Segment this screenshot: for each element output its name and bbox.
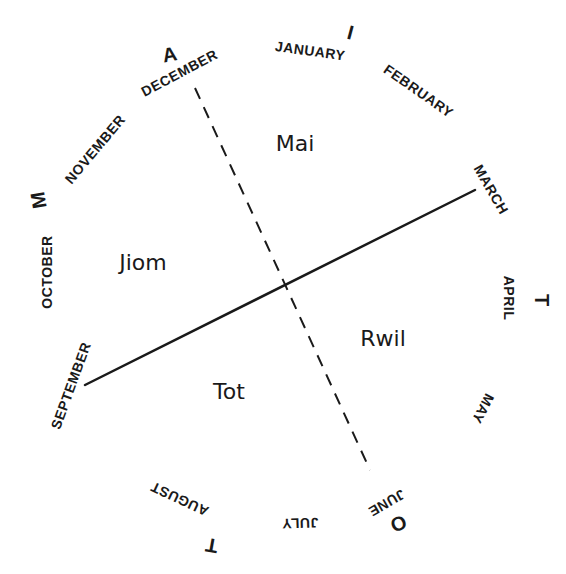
month-label-february: FEBRUARY (381, 61, 457, 121)
season-label-rwil: Rwil (360, 326, 406, 351)
marker-letter-m-2: M (26, 190, 51, 210)
month-label-september: SEPTEMBER (48, 340, 94, 432)
season-labels: MaiJiomRwilTot (117, 131, 406, 404)
marker-letter-t-5: T (204, 534, 220, 558)
month-label-october: OCTOBER (39, 235, 55, 308)
marker-letter-a-0: A (161, 42, 179, 66)
month-label-may: MAY (469, 391, 498, 426)
season-label-jiom: Jiom (117, 250, 167, 275)
month-label-march: MARCH (471, 162, 512, 217)
marker-letter-o-4: O (388, 511, 410, 537)
marker-letter-t-3: T (531, 294, 553, 306)
solid-divider-line (85, 190, 475, 385)
month-label-april: APRIL (501, 276, 517, 321)
month-label-august: AUGUST (148, 479, 211, 520)
month-label-january: JANUARY (274, 38, 346, 64)
month-label-july: JULY (281, 515, 318, 532)
season-label-mai: Mai (276, 131, 315, 156)
month-label-november: NOVEMBER (62, 112, 129, 187)
month-labels: JANUARYFEBRUARYMARCHAPRILMAYJUNEJULYAUGU… (39, 38, 518, 532)
marker-letter-i-1: I (345, 21, 356, 44)
season-label-tot: Tot (212, 379, 245, 404)
month-label-december: DECEMBER (138, 46, 220, 100)
season-wheel-diagram: JANUARYFEBRUARYMARCHAPRILMAYJUNEJULYAUGU… (0, 0, 566, 574)
cardinal-markers: AIMTOT (26, 21, 553, 558)
